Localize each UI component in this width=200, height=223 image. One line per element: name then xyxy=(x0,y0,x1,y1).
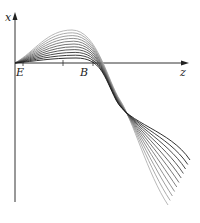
curve-family xyxy=(15,30,190,205)
curve-family-diagram xyxy=(0,0,200,223)
x-axis-arrow-icon xyxy=(13,12,18,20)
point-label-b: B xyxy=(80,67,88,78)
point-label-e: E xyxy=(16,67,24,78)
x-axis-label: x xyxy=(5,12,11,23)
curve-line xyxy=(15,44,179,183)
curve-line xyxy=(15,36,172,196)
z-axis-label: z xyxy=(180,67,186,78)
z-axis-arrow-icon xyxy=(181,61,189,66)
